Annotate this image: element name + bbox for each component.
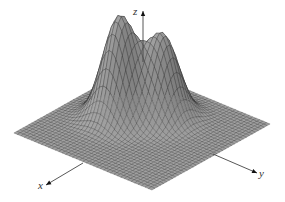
z-axis-label: z — [133, 6, 137, 17]
mesh-surface — [14, 16, 270, 190]
x-axis-label: x — [38, 180, 43, 191]
y-axis — [213, 154, 257, 173]
x-axis — [46, 163, 83, 185]
surface-plot — [0, 0, 285, 202]
z-axis-arrow-icon — [141, 11, 145, 16]
y-axis-label: y — [259, 168, 264, 179]
